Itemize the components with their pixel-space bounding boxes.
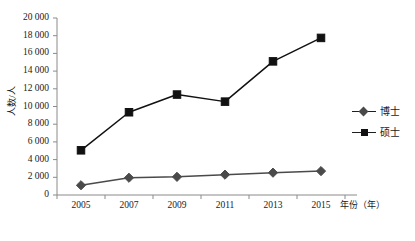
series-square (77, 34, 325, 154)
legend-label-doctoral: 博士 (376, 106, 400, 117)
legend-label-master: 硕士 (376, 127, 400, 138)
series-diamond (76, 167, 325, 190)
chart-legend: 博士 硕士 (352, 101, 414, 143)
legend-item-master[interactable]: 硕士 (352, 122, 414, 143)
line-chart: 人数/人 02 0004 0006 0008 00010 00012 00014… (0, 0, 415, 241)
diamond-marker-icon (352, 106, 376, 118)
square-marker-icon (352, 127, 376, 139)
legend-item-doctoral[interactable]: 博士 (352, 101, 414, 122)
